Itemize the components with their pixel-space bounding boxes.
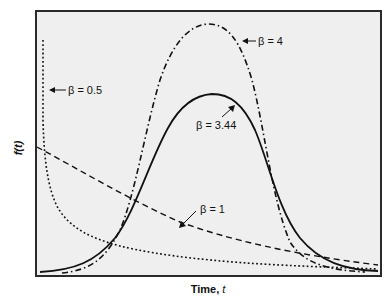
label-beta-0.5: β = 0.5 xyxy=(68,84,102,96)
x-axis-label: Time, t xyxy=(191,283,227,295)
x-axis-label-var: t xyxy=(222,283,226,295)
label-beta-3.44: β = 3.44 xyxy=(196,119,236,131)
label-beta-1: β = 1 xyxy=(200,203,225,215)
x-axis-label-main: Time, xyxy=(191,283,223,295)
y-axis-label: f(t) xyxy=(12,140,24,155)
plot-area xyxy=(36,11,381,276)
weibull-pdf-chart: β = 0.5 β = 4 β = 3.44 β = 1 f(t) Time, … xyxy=(0,0,392,302)
label-beta-4: β = 4 xyxy=(258,35,283,47)
